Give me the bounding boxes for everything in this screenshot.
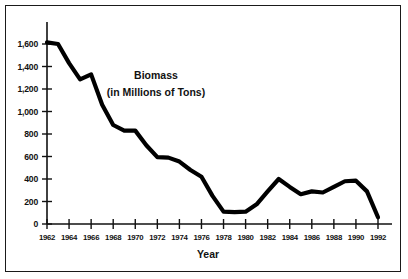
- x-axis-tick-labels: 1962196419661968197019721974197619781980…: [39, 233, 387, 242]
- y-axis: 02004006008001,0001,2001,4001,600: [17, 22, 52, 229]
- x-tick-label: 1992: [370, 233, 387, 242]
- y-tick-label: 600: [24, 152, 38, 162]
- biomass-data-line: [47, 42, 378, 217]
- y-tick-label: 1,400: [17, 62, 38, 72]
- x-tick-label: 1978: [215, 233, 232, 242]
- x-axis-title: Year: [197, 248, 219, 260]
- x-axis: 1962196419661968197019721974197619781980…: [39, 219, 392, 242]
- y-axis-tick-labels: 02004006008001,0001,2001,4001,600: [17, 39, 38, 229]
- y-tick-label: 400: [24, 174, 38, 184]
- biomass-annotation-line2: (in Millions of Tons): [107, 86, 205, 98]
- y-tick-label: 1,600: [17, 39, 38, 49]
- x-tick-label: 1982: [260, 233, 277, 242]
- x-tick-label: 1968: [105, 233, 122, 242]
- x-tick-label: 1966: [83, 233, 100, 242]
- x-tick-label: 1972: [149, 233, 166, 242]
- x-tick-label: 1980: [238, 233, 255, 242]
- x-tick-label: 1970: [127, 233, 144, 242]
- y-tick-label: 200: [24, 197, 38, 207]
- x-tick-label: 1964: [61, 233, 78, 242]
- y-tick-label: 0: [33, 219, 38, 229]
- y-tick-label: 1,000: [17, 107, 38, 117]
- x-tick-label: 1986: [304, 233, 321, 242]
- x-tick-label: 1974: [171, 233, 188, 242]
- biomass-annotation-line1: Biomass: [134, 69, 178, 81]
- biomass-line-chart: 02004006008001,0001,2001,4001,600 196219…: [0, 0, 408, 279]
- x-tick-label: 1988: [326, 233, 343, 242]
- y-tick-label: 800: [24, 129, 38, 139]
- x-tick-label: 1984: [282, 233, 299, 242]
- x-tick-label: 1962: [39, 233, 56, 242]
- x-tick-label: 1976: [193, 233, 210, 242]
- x-tick-label: 1990: [348, 233, 365, 242]
- y-tick-label: 1,200: [17, 84, 38, 94]
